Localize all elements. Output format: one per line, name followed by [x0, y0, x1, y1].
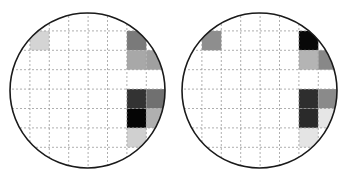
wafer-cell: [299, 109, 318, 128]
wafer-cell: [127, 31, 146, 50]
wafer-right-graphic: [172, 0, 347, 179]
wafer-left-graphic: [0, 0, 175, 179]
wafer-cell: [202, 31, 221, 50]
wafer-cell: [127, 50, 146, 69]
wafer-cell: [299, 50, 318, 69]
wafer-map-right: [172, 0, 347, 179]
wafer-cell: [127, 89, 146, 108]
wafer-cell: [299, 31, 318, 50]
wafer-map-left: [0, 0, 175, 179]
wafer-cell: [127, 109, 146, 128]
wafer-cell: [30, 31, 49, 50]
wafer-cell: [299, 89, 318, 108]
